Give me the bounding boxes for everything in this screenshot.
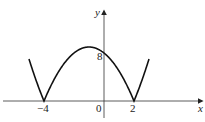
tick-label-neg4: −4 — [37, 102, 49, 114]
tick-label-2: 2 — [130, 102, 136, 114]
graph: y x 0 −4 2 8 — [0, 0, 205, 122]
tick-label-8: 8 — [97, 50, 103, 62]
x-axis-label: x — [197, 102, 203, 114]
function-curve — [29, 47, 149, 101]
y-axis-label: y — [94, 6, 100, 18]
origin-label: 0 — [96, 102, 102, 114]
